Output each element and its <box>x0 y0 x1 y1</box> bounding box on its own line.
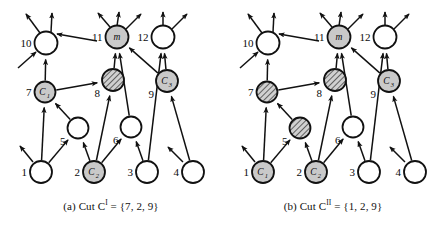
node-5-circle <box>68 118 89 139</box>
edge-9-to-m <box>351 48 380 73</box>
node-9-inner-label: C <box>161 76 168 86</box>
node-10-outer-label: 10 <box>21 37 33 49</box>
node-7-outer-label: 7 <box>26 86 32 98</box>
caption-b-prefix: (b) Cut C <box>284 200 326 212</box>
node-12[interactable]: 12 <box>360 26 397 49</box>
edge-2-to-8 <box>96 96 109 161</box>
node-3[interactable]: 3 <box>128 161 159 183</box>
edge-5-to-7 <box>277 103 292 119</box>
node-7[interactable]: C17 <box>26 82 56 103</box>
node-8-circle <box>324 69 346 91</box>
node-12-outer-label: 12 <box>360 31 371 43</box>
node-9-outer-label: 9 <box>371 88 377 100</box>
node-9-outer-label: 9 <box>149 88 155 100</box>
diagram-a: 10m1112C178C39561C2234 <box>0 0 222 196</box>
edge-out-10-left <box>248 14 262 33</box>
node-7-outer-label: 7 <box>248 86 254 98</box>
node-7-inner-label: C <box>39 87 46 97</box>
node-2[interactable]: C22 <box>75 161 106 183</box>
node-5[interactable]: 5 <box>282 118 311 147</box>
edge-1-to-7 <box>264 107 267 160</box>
node-m-inner-label: m <box>114 32 121 42</box>
node-m-inner-label: m <box>336 32 343 42</box>
node-m[interactable]: m11 <box>314 26 351 49</box>
node-12-circle <box>152 26 175 49</box>
edge-1-to-7 <box>42 107 45 160</box>
node-3-outer-label: 3 <box>128 166 134 178</box>
node-m[interactable]: m11 <box>92 26 129 49</box>
edge-3-to-6 <box>136 142 143 161</box>
node-4[interactable]: 4 <box>396 161 427 183</box>
node-12[interactable]: 12 <box>138 26 175 49</box>
node-6[interactable]: 6 <box>113 117 142 146</box>
node-6-outer-label: 6 <box>113 134 119 146</box>
node-1[interactable]: 1 <box>22 161 53 183</box>
node-m-outer-label: 11 <box>314 31 325 43</box>
node-9[interactable]: C39 <box>371 70 401 100</box>
node-12-outer-label: 12 <box>138 31 149 43</box>
node-6-outer-label: 6 <box>335 134 341 146</box>
edge-out-m-right <box>348 14 363 29</box>
caption-a: (a) Cut CI = {7, 2, 9} <box>0 198 222 212</box>
edge-9-to-12 <box>164 53 165 69</box>
edge-5-to-7 <box>55 103 70 119</box>
node-3[interactable]: 3 <box>350 161 381 183</box>
node-4-circle <box>404 161 426 183</box>
node-9[interactable]: C39 <box>149 70 179 100</box>
node-8[interactable]: 8 <box>317 69 347 99</box>
node-7[interactable]: 7 <box>248 82 278 103</box>
node-1[interactable]: C11 <box>244 161 275 183</box>
node-m-outer-label: 11 <box>92 31 103 43</box>
node-layer: 10m1112C178C39561C2234 <box>21 26 205 184</box>
node-4-outer-label: 4 <box>396 166 402 178</box>
node-1-circle <box>30 161 52 183</box>
panel-a: 10m1112C178C39561C2234 (a) Cut CI = {7, … <box>0 0 222 226</box>
node-4-outer-label: 4 <box>174 166 180 178</box>
node-6-circle <box>121 117 142 138</box>
edge-3-to-6 <box>358 142 365 161</box>
node-10-circle <box>257 32 280 55</box>
edge-2-to-5 <box>83 143 90 161</box>
edge-out-m-left <box>98 13 110 27</box>
edge-out-1-upleft <box>20 146 33 162</box>
node-9-inner-subscript: 3 <box>168 81 173 88</box>
node-2[interactable]: C22 <box>297 161 328 183</box>
figure-container: 10m1112C178C39561C2234 (a) Cut CI = {7, … <box>0 0 445 226</box>
edge-out-1-upleft <box>242 146 255 162</box>
edge-out-12-right <box>394 14 409 29</box>
edge-into-10 <box>18 52 36 68</box>
node-9-inner-label: C <box>383 76 390 86</box>
edge-8-to-m <box>336 53 337 68</box>
node-5-outer-label: 5 <box>60 135 66 147</box>
edge-out-10-right <box>273 13 274 32</box>
node-6[interactable]: 6 <box>335 117 364 146</box>
edge-into-4-upleft <box>390 147 405 162</box>
edge-out-m-up <box>117 12 119 26</box>
node-4-circle <box>182 161 204 183</box>
node-10[interactable]: 10 <box>243 32 280 55</box>
edge-7-to-8 <box>278 83 319 90</box>
caption-b: (b) Cut CII = {1, 2, 9} <box>222 198 444 212</box>
panel-b: 10m111278C3956C11C2234 (b) Cut CII = {1,… <box>222 0 444 226</box>
node-7-circle <box>257 82 278 103</box>
node-8-outer-label: 8 <box>95 87 101 99</box>
node-1-outer-label: 1 <box>22 166 28 178</box>
edge-4-to-9 <box>171 96 189 160</box>
node-4[interactable]: 4 <box>174 161 205 183</box>
node-7-inner-subscript: 1 <box>47 92 50 99</box>
edge-out-m-right <box>126 14 141 29</box>
node-10-outer-label: 10 <box>243 37 255 49</box>
node-1-inner-label: C <box>257 167 264 177</box>
node-10-circle <box>35 32 58 55</box>
node-3-circle <box>136 161 158 183</box>
node-2-inner-label: C <box>88 167 95 177</box>
node-8[interactable]: 8 <box>95 69 125 99</box>
node-10[interactable]: 10 <box>21 32 58 55</box>
edge-9-to-12 <box>386 53 387 69</box>
edge-7-to-8 <box>56 83 97 90</box>
node-1-outer-label: 1 <box>244 166 250 178</box>
edge-out-m-left <box>320 13 332 27</box>
node-5[interactable]: 5 <box>60 118 89 147</box>
node-9-inner-subscript: 3 <box>390 81 395 88</box>
node-1-inner-subscript: 1 <box>265 172 268 179</box>
